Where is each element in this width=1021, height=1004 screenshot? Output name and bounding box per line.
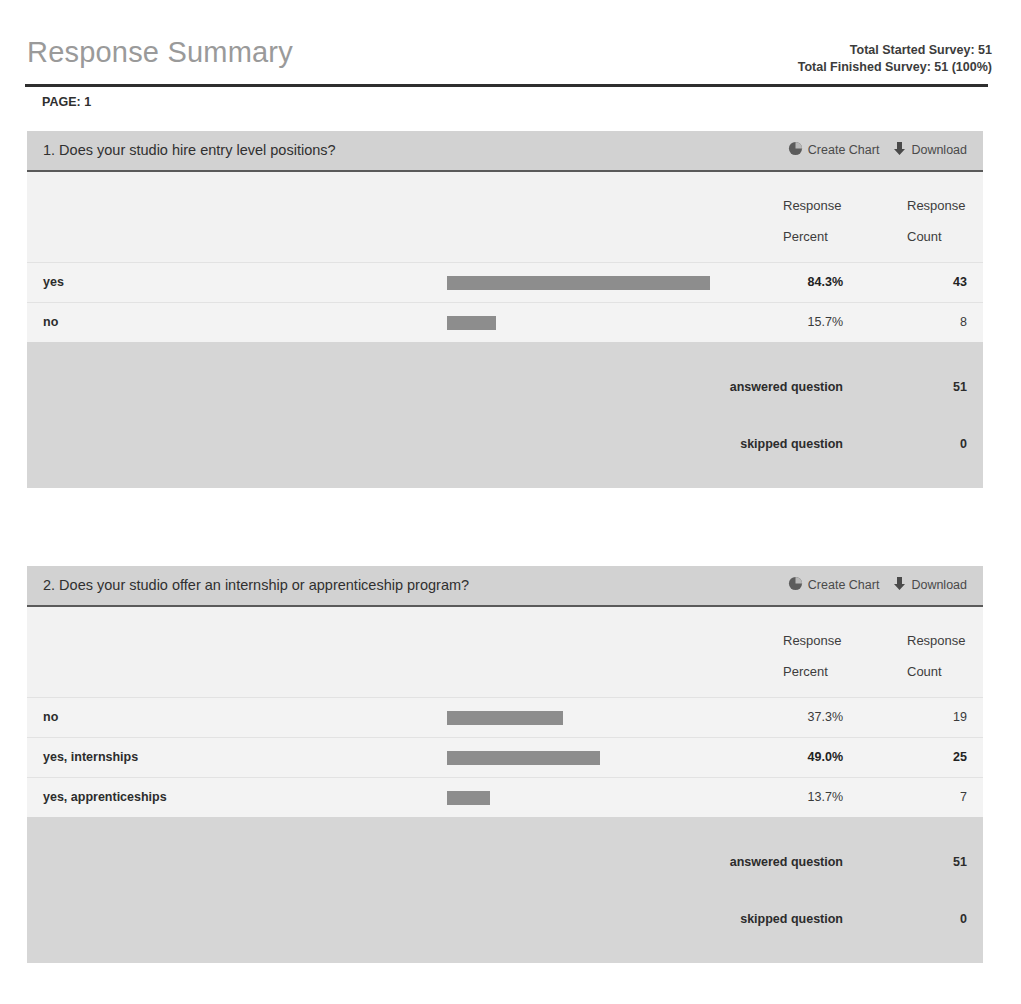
bar-track	[447, 316, 767, 330]
table-row: yes, internships 49.0% 25	[27, 737, 983, 777]
table-row: yes, apprenticeships 13.7% 7	[27, 777, 983, 817]
answer-label: no	[43, 710, 58, 724]
download-arrow-icon	[893, 141, 906, 159]
response-percent: 37.3%	[727, 710, 843, 724]
question-footer: answered question 51 skipped question 0	[27, 817, 983, 963]
download-label: Download	[911, 578, 967, 592]
bar-track	[447, 711, 767, 725]
question-block: 1. Does your studio hire entry level pos…	[27, 131, 983, 488]
skipped-question-label: skipped question	[587, 912, 843, 926]
bar-fill	[447, 276, 710, 290]
question-header: 2. Does your studio offer an internship …	[27, 566, 983, 607]
table-row: no 15.7% 8	[27, 302, 983, 342]
skipped-question-label: skipped question	[587, 437, 843, 451]
table-row: yes 84.3% 43	[27, 262, 983, 302]
table-row: no 37.3% 19	[27, 697, 983, 737]
create-chart-button[interactable]: Create Chart	[788, 141, 880, 159]
header-divider	[25, 84, 988, 87]
create-chart-label: Create Chart	[808, 143, 880, 157]
table-column-headers: Response Percent Response Count	[27, 172, 983, 262]
response-count: 7	[857, 790, 967, 804]
response-count: 25	[857, 750, 967, 764]
response-count: 43	[857, 275, 967, 289]
answer-label: no	[43, 315, 58, 329]
question-actions: Create Chart Download	[788, 141, 967, 159]
total-finished-survey: Total Finished Survey: 51 (100%)	[798, 59, 992, 76]
response-count: 19	[857, 710, 967, 724]
bar-track	[447, 276, 767, 290]
response-table: Response Percent Response Count no 37.3%…	[27, 607, 983, 817]
skipped-question-row: skipped question 0	[27, 890, 983, 947]
answer-label: yes	[43, 275, 64, 289]
bar-fill	[447, 711, 563, 725]
question-actions: Create Chart Download	[788, 576, 967, 594]
answered-question-label: answered question	[587, 855, 843, 869]
question-block: 2. Does your studio offer an internship …	[27, 566, 983, 963]
bar-fill	[447, 791, 490, 805]
response-percent: 13.7%	[727, 790, 843, 804]
bar-fill	[447, 751, 600, 765]
column-header-response-count: Response Count	[907, 190, 966, 252]
download-arrow-icon	[893, 576, 906, 594]
question-title: 2. Does your studio offer an internship …	[43, 577, 469, 593]
skipped-question-value: 0	[857, 437, 967, 451]
create-chart-label: Create Chart	[808, 578, 880, 592]
answer-label: yes, apprenticeships	[43, 790, 167, 804]
download-label: Download	[911, 143, 967, 157]
bar-track	[447, 791, 767, 805]
column-header-response-percent: Response Percent	[783, 190, 842, 252]
response-table: Response Percent Response Count yes 84.3…	[27, 172, 983, 342]
response-percent: 84.3%	[727, 275, 843, 289]
skipped-question-row: skipped question 0	[27, 415, 983, 472]
response-percent: 49.0%	[727, 750, 843, 764]
question-footer: answered question 51 skipped question 0	[27, 342, 983, 488]
pie-chart-icon	[788, 576, 803, 594]
column-header-response-percent: Response Percent	[783, 625, 842, 687]
survey-totals: Total Started Survey: 51 Total Finished …	[798, 42, 992, 76]
bar-fill	[447, 316, 496, 330]
skipped-question-value: 0	[857, 912, 967, 926]
question-header: 1. Does your studio hire entry level pos…	[27, 131, 983, 172]
answered-question-value: 51	[857, 855, 967, 869]
create-chart-button[interactable]: Create Chart	[788, 576, 880, 594]
total-started-survey: Total Started Survey: 51	[798, 42, 992, 59]
column-header-response-count: Response Count	[907, 625, 966, 687]
pie-chart-icon	[788, 141, 803, 159]
answered-question-value: 51	[857, 380, 967, 394]
answered-question-row: answered question 51	[27, 358, 983, 415]
response-count: 8	[857, 315, 967, 329]
answered-question-label: answered question	[587, 380, 843, 394]
question-title: 1. Does your studio hire entry level pos…	[43, 142, 336, 158]
download-button[interactable]: Download	[893, 576, 967, 594]
answer-label: yes, internships	[43, 750, 138, 764]
response-percent: 15.7%	[727, 315, 843, 329]
page-label: PAGE: 1	[42, 95, 91, 109]
table-column-headers: Response Percent Response Count	[27, 607, 983, 697]
answered-question-row: answered question 51	[27, 833, 983, 890]
download-button[interactable]: Download	[893, 141, 967, 159]
bar-track	[447, 751, 767, 765]
page-title: Response Summary	[27, 36, 293, 69]
